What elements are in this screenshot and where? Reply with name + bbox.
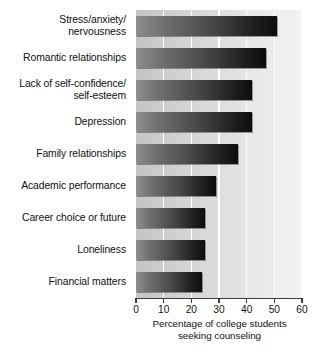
bar-slot <box>136 234 302 266</box>
bar-slot <box>136 170 302 202</box>
x-tick-40 <box>246 298 247 303</box>
x-tick-50 <box>274 298 275 303</box>
x-tick-label-30: 30 <box>207 304 231 316</box>
bar[interactable] <box>136 272 202 292</box>
x-axis-title: Percentage of college students seeking c… <box>120 318 319 342</box>
x-tick-30 <box>218 298 219 303</box>
bar-slot <box>136 106 302 138</box>
x-tick-60 <box>301 298 302 303</box>
bar-slot <box>136 74 302 106</box>
category-label-depression: Depression <box>0 106 131 138</box>
x-tick-20 <box>191 298 192 303</box>
category-label-stress-anxiety-nervousness: Stress/anxiety/ nervousness <box>0 10 131 42</box>
bar[interactable] <box>136 176 216 196</box>
bar-slot <box>136 10 302 42</box>
bar-slot <box>136 138 302 170</box>
plot-area <box>136 10 302 298</box>
bar[interactable] <box>136 144 238 164</box>
bar-slot <box>136 266 302 298</box>
category-label-career-choice-or-future: Career choice or future <box>0 202 131 234</box>
bar-chart: Stress/anxiety/ nervousness Romantic rel… <box>0 0 319 350</box>
category-label-lack-of-self-confidence: Lack of self-confidence/ self-esteem <box>0 74 131 106</box>
x-tick-label-10: 10 <box>152 304 176 316</box>
x-tick-label-20: 20 <box>179 304 203 316</box>
category-label-financial-matters: Financial matters <box>0 266 131 298</box>
bar-slot <box>136 202 302 234</box>
x-tick-label-40: 40 <box>235 304 259 316</box>
bar[interactable] <box>136 16 277 36</box>
x-tick-10 <box>163 298 164 303</box>
x-tick-label-60: 60 <box>290 304 314 316</box>
bar[interactable] <box>136 208 205 228</box>
bar-series <box>136 10 302 298</box>
category-label-family-relationships: Family relationships <box>0 138 131 170</box>
x-tick-label-50: 50 <box>262 304 286 316</box>
bar[interactable] <box>136 48 266 68</box>
x-tick-label-0: 0 <box>124 304 148 316</box>
category-label-romantic-relationships: Romantic relationships <box>0 42 131 74</box>
bar-slot <box>136 42 302 74</box>
category-label-loneliness: Loneliness <box>0 234 131 266</box>
bar[interactable] <box>136 80 252 100</box>
bar[interactable] <box>136 240 205 260</box>
x-tick-0 <box>135 298 136 303</box>
bar[interactable] <box>136 112 252 132</box>
category-axis-labels: Stress/anxiety/ nervousness Romantic rel… <box>0 10 131 298</box>
category-label-academic-performance: Academic performance <box>0 170 131 202</box>
